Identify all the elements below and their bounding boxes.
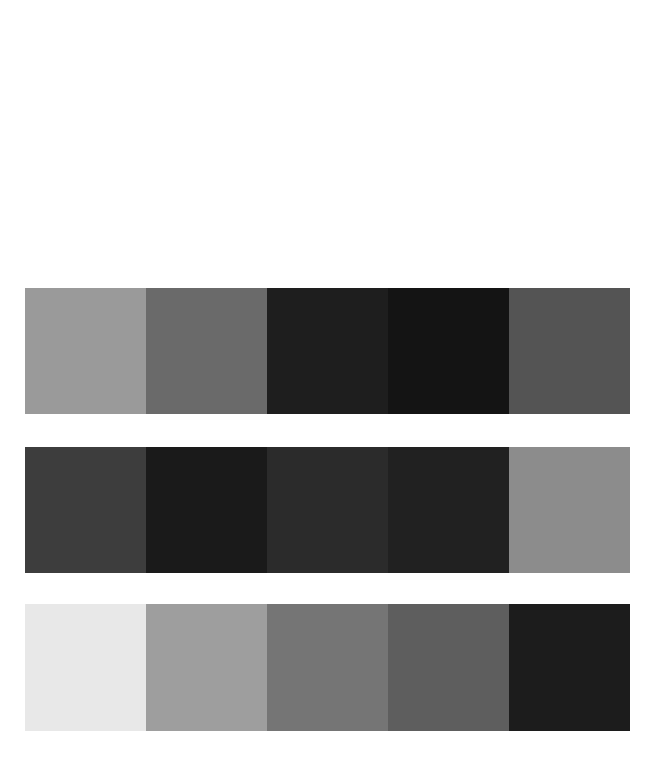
- swatch-row-band-1: [25, 288, 630, 414]
- swatch-cell: [509, 604, 630, 731]
- swatch-canvas: [0, 0, 655, 757]
- swatch-cell: [25, 447, 146, 573]
- swatch-cell: [146, 288, 267, 414]
- swatch-cell: [146, 447, 267, 573]
- swatch-cell: [25, 604, 146, 731]
- swatch-cell: [267, 604, 388, 731]
- swatch-cell: [25, 288, 146, 414]
- swatch-cell: [388, 288, 509, 414]
- swatch-row-band-3: [25, 604, 630, 731]
- swatch-row-band-2: [25, 447, 630, 573]
- swatch-cell: [146, 604, 267, 731]
- swatch-cell: [267, 288, 388, 414]
- swatch-cell: [509, 447, 630, 573]
- swatch-cell: [267, 447, 388, 573]
- swatch-cell: [388, 447, 509, 573]
- swatch-cell: [509, 288, 630, 414]
- swatch-cell: [388, 604, 509, 731]
